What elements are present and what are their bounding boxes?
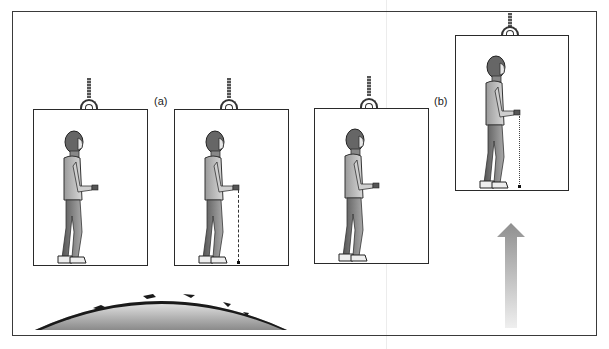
label-a: (a) [154,95,167,107]
ball-path-dotted [519,116,520,186]
person-figure-icon [333,128,393,263]
person-figure-icon [474,55,534,190]
rope-icon [87,78,91,98]
person-figure-icon [52,130,112,265]
rope-icon [508,13,512,27]
ball-icon [237,261,240,264]
up-arrow-icon [496,223,526,329]
earth-icon [33,288,289,332]
rope-icon [227,78,231,98]
ball-icon [518,185,521,188]
label-b: (b) [434,95,447,107]
person-figure-icon [193,130,253,265]
ball-path-dashed [238,190,239,262]
rope-icon [367,76,371,96]
